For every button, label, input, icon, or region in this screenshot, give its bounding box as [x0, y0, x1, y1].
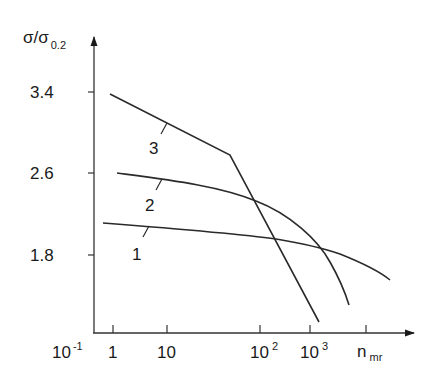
series-2-line [117, 173, 349, 305]
x-tick-label: 102 [250, 340, 278, 362]
x-tick-label: 10 [157, 343, 176, 362]
y-tick-label: 3.4 [30, 83, 54, 102]
series-3-line [110, 94, 319, 322]
x-tick-label: 1 [108, 343, 117, 362]
y-axis-label: σ/σ0.2 [23, 28, 66, 51]
series-2-leader [156, 179, 162, 190]
x-tick-label: 103 [300, 340, 328, 362]
y-tick-label: 2.6 [30, 164, 54, 183]
chart: σ/σ0.2 3.4 2.6 1.8 10-1 1 10 102 103 nmr… [0, 0, 433, 379]
series-1-label: 1 [132, 245, 141, 264]
x-tick-label: 10-1 [52, 340, 83, 362]
series-3-leader [161, 123, 167, 134]
series-1-leader [143, 226, 149, 237]
series-3-label: 3 [149, 139, 158, 158]
series-2-label: 2 [145, 196, 154, 215]
x-axis-label: nmr [357, 342, 383, 363]
y-tick-label: 1.8 [30, 246, 54, 265]
